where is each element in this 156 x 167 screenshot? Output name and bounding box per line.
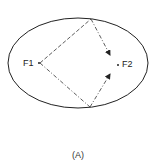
focus-1-label: F1	[23, 59, 34, 68]
focus-2-dot	[117, 64, 119, 66]
focus-1-dot	[38, 62, 40, 64]
ellipse-diagram	[0, 0, 156, 167]
ray-top-to-f2	[91, 19, 110, 55]
figure-caption: (A)	[0, 150, 156, 160]
ray-bottom-to-f2	[90, 74, 110, 107]
ray-f1-to-bottom	[40, 63, 90, 107]
ray-f1-to-top	[40, 19, 91, 63]
focus-2-label: F2	[122, 60, 133, 69]
